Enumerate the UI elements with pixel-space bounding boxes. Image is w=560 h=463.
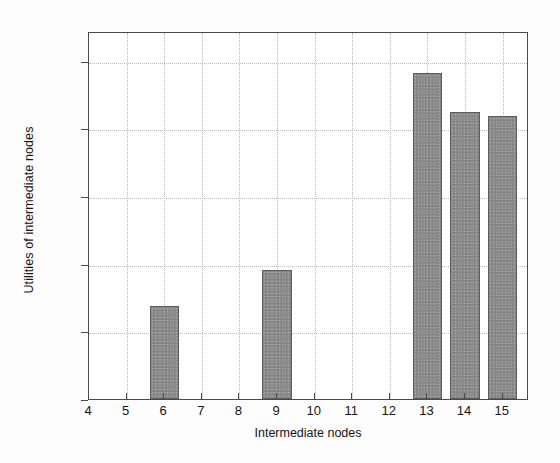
x-tick-mark: [426, 393, 427, 400]
x-tick-label: 6: [148, 403, 178, 418]
x-tick-mark: [201, 393, 202, 400]
gridline-horizontal: [89, 63, 527, 64]
x-tick-label: 4: [73, 403, 103, 418]
gridline-vertical: [202, 33, 203, 399]
bar: [150, 306, 179, 399]
bar: [413, 73, 442, 399]
x-tick-label: 10: [299, 403, 329, 418]
plot-area: [88, 32, 528, 400]
x-tick-mark: [126, 393, 127, 400]
x-axis-title: Intermediate nodes: [88, 426, 528, 440]
bar: [450, 112, 479, 399]
y-tick-mark: [81, 129, 88, 130]
x-tick-label: 7: [186, 403, 216, 418]
x-tick-label: 5: [111, 403, 141, 418]
x-tick-mark: [238, 393, 239, 400]
x-tick-mark: [276, 393, 277, 400]
gridline-vertical: [390, 33, 391, 399]
y-tick-mark: [81, 62, 88, 63]
gridline-vertical: [352, 33, 353, 399]
x-tick-label: 11: [336, 403, 366, 418]
y-tick-mark: [81, 332, 88, 333]
x-tick-label: 8: [223, 403, 253, 418]
y-tick-mark: [81, 197, 88, 198]
x-tick-label: 14: [449, 403, 479, 418]
x-tick-mark: [502, 393, 503, 400]
gridline-vertical: [239, 33, 240, 399]
x-tick-label: 13: [411, 403, 441, 418]
x-tick-label: 15: [487, 403, 517, 418]
y-axis-title: Utilities of intermediate nodes: [22, 20, 44, 400]
x-tick-label: 9: [261, 403, 291, 418]
x-tick-mark: [88, 393, 89, 400]
x-tick-mark: [351, 393, 352, 400]
bar: [262, 270, 291, 399]
gridline-vertical: [127, 33, 128, 399]
x-tick-mark: [464, 393, 465, 400]
x-tick-label: 12: [374, 403, 404, 418]
figure-container: Utilities of intermediate nodes 00.511.5…: [0, 0, 560, 463]
x-tick-mark: [389, 393, 390, 400]
x-tick-mark: [314, 393, 315, 400]
bar: [488, 116, 517, 399]
gridline-vertical: [315, 33, 316, 399]
x-tick-mark: [163, 393, 164, 400]
y-tick-mark: [81, 265, 88, 266]
y-tick-mark: [81, 400, 88, 401]
